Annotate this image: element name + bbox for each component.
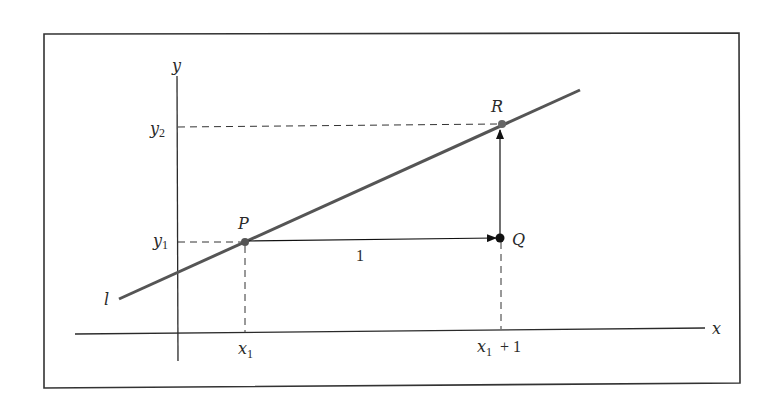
x-axis [75,328,705,334]
point-q [496,234,505,243]
line-l-label: l [104,290,109,309]
y-axis [177,76,178,361]
point-q-label: Q [512,230,525,249]
y2-label: y2 [149,119,165,140]
run-arrow [248,238,496,241]
x1-label: x1 [238,339,253,361]
point-p-label: P [237,214,249,233]
line-l [119,90,580,299]
slope-diagram: y x R P Q l 1 y2 y1 x1 x1+ 1 [0,0,771,413]
x1-plus-1-label: x1+ 1 [477,337,521,359]
y1-label: y1 [152,231,168,252]
y2-guide [178,124,498,127]
figure-frame [44,33,740,388]
x-axis-label: x [712,319,721,338]
point-p [241,238,249,246]
run-label: 1 [356,247,364,264]
y-axis-label: y [171,56,182,75]
point-r-label: R [490,97,503,116]
point-r [498,120,506,128]
